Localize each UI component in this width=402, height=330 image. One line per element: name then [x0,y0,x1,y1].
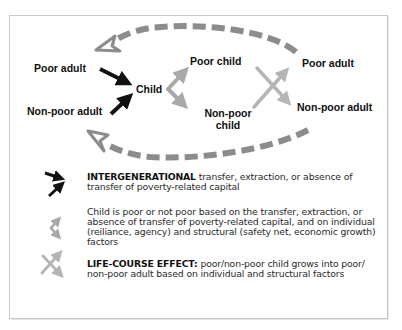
diagram-graphics [0,0,402,330]
node-non-poor-child: Non-poor child [201,107,255,131]
legend-item-life-course: LIFE-COURSE EFFECT: poor/non-poor child … [87,259,383,279]
cycle-arrow-bottom-icon [88,130,308,158]
legend-child-outcome-arrows-icon [51,220,58,236]
life-course-arrow-to-poor-adult-icon [254,72,285,107]
node-non-poor-adult-right: Non-poor adult [297,101,372,113]
node-non-poor-adult-left: Non-poor adult [27,105,102,117]
legend-item-child-outcome-desc: Child is poor or not poor based on the t… [87,206,375,247]
legend-item-child-outcome: Child is poor or not poor based on the t… [87,207,383,247]
node-child: Child [136,83,162,95]
legend-item-intergenerational: INTERGENERATIONAL transfer, extraction, … [87,172,383,192]
intergenerational-arrow-from-non-poor-adult-icon [111,98,128,114]
cycle-arrow-top-icon [96,26,296,52]
node-non-poor-child-line2: child [201,119,255,131]
child-to-poor-child-arrow-icon [168,72,184,89]
intergenerational-arrow-from-poor-adult-icon [100,69,126,82]
node-non-poor-child-line1: Non-poor [201,107,255,119]
child-to-non-poor-child-arrow-icon [168,89,183,104]
node-poor-adult-right: Poor adult [302,57,354,69]
legend-intergenerational-arrows-icon [45,173,61,196]
node-poor-child: Poor child [190,55,241,67]
legend-life-course-cross-arrows-icon [42,254,60,274]
node-poor-adult-left: Poor adult [34,62,86,74]
